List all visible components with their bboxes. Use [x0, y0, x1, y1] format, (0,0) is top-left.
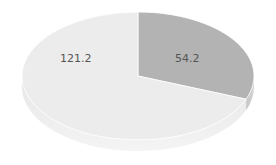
slice-value-label: 54.2: [175, 52, 200, 65]
pie-chart: 54.2121.2 54.2 121.2: [0, 0, 276, 165]
slice-value-label: 121.2: [60, 52, 92, 65]
pie-slices: [22, 12, 254, 140]
